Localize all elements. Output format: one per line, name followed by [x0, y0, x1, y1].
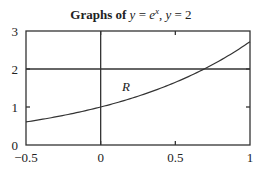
y-tick-label: 1 [12, 100, 19, 115]
annotations: R [121, 79, 130, 94]
chart-title: Graphs of y = ex, y = 2 [70, 6, 191, 22]
y-tick-labels: 0123 [12, 24, 19, 153]
x-tick-label: 0.5 [167, 150, 183, 165]
plot-frame [26, 31, 250, 145]
chart: Graphs of y = ex, y = 2 −0.500.51 0123 R [0, 0, 262, 178]
y-tick-label: 3 [12, 24, 19, 39]
y-tick-label: 0 [12, 138, 19, 153]
x-tick-labels: −0.500.51 [14, 150, 253, 165]
y-tick-label: 2 [12, 62, 19, 77]
series-exp-curve [26, 42, 250, 122]
ticks [26, 31, 250, 145]
region-label-r: R [121, 79, 130, 94]
x-tick-label: 1 [247, 150, 254, 165]
series-group [26, 42, 250, 122]
x-tick-label: 0 [97, 150, 104, 165]
